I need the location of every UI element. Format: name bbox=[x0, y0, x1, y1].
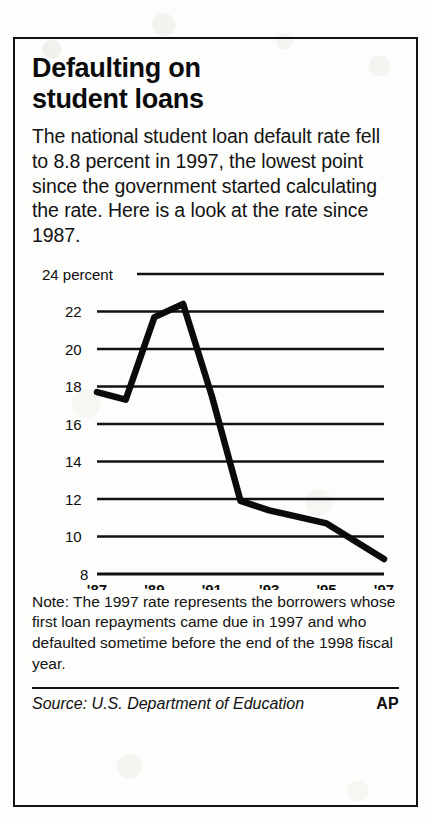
source-divider bbox=[32, 687, 399, 689]
y-tick-label: 14 bbox=[65, 453, 82, 470]
headline-line-1: Defaulting on bbox=[32, 53, 201, 83]
infographic-frame: Defaulting on student loans The national… bbox=[13, 37, 418, 807]
credit-label: AP bbox=[376, 695, 399, 713]
y-tick-label: 20 bbox=[65, 340, 82, 357]
line-chart: 24 percent222018161412108 '87'89'91'93'9… bbox=[32, 260, 399, 590]
chart-x-axis-labels: '87'89'91'93'95'97 bbox=[87, 581, 394, 590]
x-tick-label: '93 bbox=[259, 581, 279, 590]
chart-canvas: 24 percent222018161412108 '87'89'91'93'9… bbox=[32, 260, 403, 590]
y-tick-label: 18 bbox=[65, 378, 82, 395]
chart-note: Note: The 1997 rate represents the borro… bbox=[32, 592, 399, 674]
x-tick-label: '97 bbox=[374, 581, 394, 590]
y-tick-label: 22 bbox=[65, 303, 82, 320]
x-tick-label: '95 bbox=[316, 581, 336, 590]
page-title: Defaulting on student loans bbox=[32, 53, 399, 114]
y-tick-label: 12 bbox=[65, 490, 82, 507]
deck-text: The national student loan default rate f… bbox=[32, 124, 399, 248]
y-tick-label: 24 percent bbox=[42, 265, 114, 282]
chart-data-line bbox=[97, 304, 384, 559]
headline-line-2: student loans bbox=[32, 84, 204, 114]
source-row: Source: U.S. Department of Education AP bbox=[32, 695, 399, 713]
x-tick-label: '91 bbox=[202, 581, 222, 590]
source-label: Source: U.S. Department of Education bbox=[32, 695, 304, 713]
y-tick-label: 8 bbox=[80, 565, 88, 582]
y-tick-label: 10 bbox=[65, 528, 82, 545]
x-tick-label: '89 bbox=[144, 581, 164, 590]
y-tick-label: 16 bbox=[65, 415, 82, 432]
x-tick-label: '87 bbox=[87, 581, 107, 590]
